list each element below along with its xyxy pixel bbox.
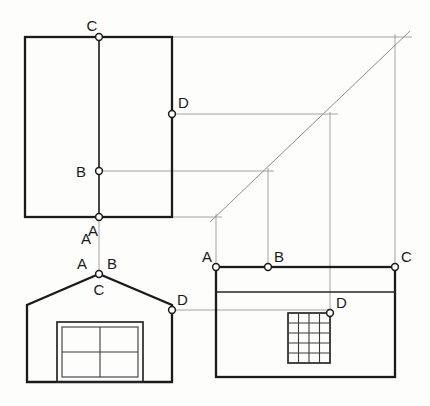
projection-lines-group xyxy=(99,31,412,315)
side-elevation-group: A B C D xyxy=(202,248,412,377)
plan-point-c-node xyxy=(96,34,103,41)
plan-point-c-label: C xyxy=(87,17,98,34)
plan-point-b-node xyxy=(96,168,103,175)
side-point-c-label: C xyxy=(401,248,412,265)
side-point-c-node xyxy=(392,264,399,271)
side-window-group xyxy=(288,313,330,363)
side-point-d-node xyxy=(327,310,334,317)
front-aux-label-a-lower: A xyxy=(77,255,87,272)
plan-view-group: C D B A xyxy=(25,17,189,239)
front-point-c-node xyxy=(96,271,103,278)
front-aux-label-b: B xyxy=(107,255,117,272)
side-point-a-label: A xyxy=(202,248,212,265)
front-point-d-label: D xyxy=(177,291,188,308)
side-point-b-label: B xyxy=(274,248,284,265)
miter-line-45-degree xyxy=(210,31,410,222)
side-point-d-label: D xyxy=(336,294,347,311)
front-aux-label-a-upper: A xyxy=(81,230,91,247)
front-elevation-group: C D A A B xyxy=(27,230,188,382)
plan-point-a-node xyxy=(96,214,103,221)
front-point-c-label: C xyxy=(94,281,105,298)
plan-point-b-label: B xyxy=(76,163,86,180)
front-point-d-node xyxy=(169,307,176,314)
side-point-a-node xyxy=(213,264,220,271)
orthographic-drawing-canvas: C D B A C D A A B xyxy=(0,0,430,406)
plan-point-d-label: D xyxy=(178,94,189,111)
plan-point-d-node xyxy=(169,111,176,118)
orthographic-projection-figure: C D B A C D A A B xyxy=(0,0,430,406)
side-point-b-node xyxy=(265,264,272,271)
side-elevation-outline xyxy=(216,267,395,377)
